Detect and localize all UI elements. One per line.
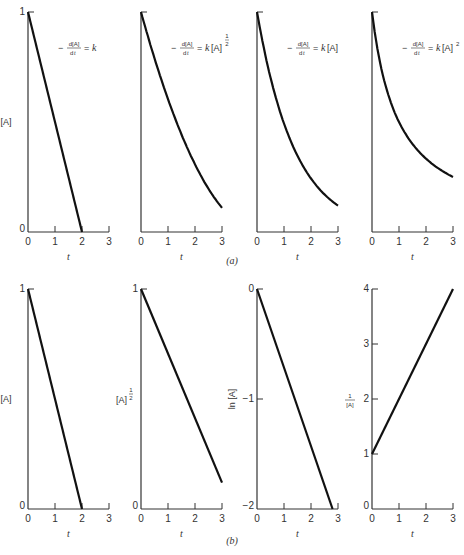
x-tick-label: 0 xyxy=(25,236,31,247)
x-tick-label: 2 xyxy=(308,513,314,524)
x-tick-label: 2 xyxy=(423,513,429,524)
y-tick-label: −2 xyxy=(243,500,255,511)
x-tick-label: 3 xyxy=(335,236,341,247)
x-tick-label: 0 xyxy=(369,513,375,524)
concentration: [A] xyxy=(327,43,338,53)
x-axis-title: t xyxy=(411,251,414,262)
x-tick-label: 0 xyxy=(25,513,31,524)
rate-constant: k xyxy=(92,42,97,53)
x-tick-label: 0 xyxy=(138,513,144,524)
y-tick-label: 0 xyxy=(132,500,138,511)
y-axis-title: [A] xyxy=(346,402,354,408)
denominator: t xyxy=(303,50,305,56)
x-tick-label: 3 xyxy=(219,236,225,247)
chart-a-1: 0123t01[A]−d[A]dt=k xyxy=(0,6,112,262)
x-tick-label: 3 xyxy=(450,236,456,247)
exponent: 1 xyxy=(225,33,229,39)
denominator: d xyxy=(414,50,417,56)
equals: = xyxy=(428,43,433,53)
denominator: t xyxy=(187,50,189,56)
y-exponent: 2 xyxy=(129,395,133,401)
minus-sign: − xyxy=(58,43,63,53)
y-tick-label: 4 xyxy=(363,283,369,294)
denominator: t xyxy=(418,50,420,56)
y-axis-title: 1 xyxy=(348,393,352,399)
concentration: [A] xyxy=(442,43,453,53)
data-curve xyxy=(372,12,453,177)
y-axis-title: [A] xyxy=(0,117,11,127)
numerator: d[A] xyxy=(298,41,309,47)
y-tick-label: 1 xyxy=(19,283,25,294)
y-tick-label: 3 xyxy=(363,338,369,349)
chart-b-2: 0123t01[A]12 xyxy=(116,283,225,539)
x-axis-title: t xyxy=(180,528,183,539)
x-axis-title: t xyxy=(180,251,183,262)
x-tick-label: 1 xyxy=(52,236,58,247)
x-tick-label: 1 xyxy=(396,236,402,247)
x-tick-label: 2 xyxy=(192,513,198,524)
x-tick-label: 3 xyxy=(106,236,112,247)
x-tick-label: 1 xyxy=(281,236,287,247)
x-tick-label: 1 xyxy=(165,236,171,247)
x-tick-label: 0 xyxy=(254,513,260,524)
denominator: t xyxy=(74,50,76,56)
rate-constant: k xyxy=(321,42,326,53)
rate-equation: −d[A]dt=k[A] xyxy=(287,41,338,56)
x-axis-title: t xyxy=(296,528,299,539)
x-tick-label: 2 xyxy=(308,236,314,247)
exponent: 2 xyxy=(225,41,229,47)
y-tick-label: 0 xyxy=(363,500,369,511)
x-tick-label: 2 xyxy=(423,236,429,247)
rate-constant: k xyxy=(205,42,210,53)
minus-sign: − xyxy=(287,43,292,53)
x-tick-label: 1 xyxy=(396,513,402,524)
y-tick-label: 0 xyxy=(248,283,254,294)
x-axis-title: t xyxy=(296,251,299,262)
y-exponent: 1 xyxy=(129,387,133,393)
rate-constant: k xyxy=(436,42,441,53)
equals: = xyxy=(197,43,202,53)
y-tick-label: 1 xyxy=(132,283,138,294)
x-tick-label: 3 xyxy=(106,513,112,524)
x-tick-label: 0 xyxy=(138,236,144,247)
x-axis-title: t xyxy=(67,528,70,539)
x-tick-label: 2 xyxy=(79,513,85,524)
y-axis-title: [A] xyxy=(116,395,127,405)
chart-a-4: 0123t−d[A]dt=k[A]2 xyxy=(369,12,460,262)
denominator: d xyxy=(70,50,73,56)
chart-a-2: 0123t−d[A]dt=k[A]12 xyxy=(138,12,229,262)
data-curve xyxy=(28,289,82,509)
minus-sign: − xyxy=(402,43,407,53)
rate-law-figure: 0123t01[A]−d[A]dt=k0123t−d[A]dt=k[A]1201… xyxy=(0,0,464,555)
equals: = xyxy=(313,43,318,53)
x-tick-label: 1 xyxy=(165,513,171,524)
x-tick-label: 1 xyxy=(281,513,287,524)
x-tick-label: 1 xyxy=(52,513,58,524)
chart-b-3: 0123t−2−10ln [A] xyxy=(227,283,341,539)
data-curve xyxy=(257,289,333,509)
chart-b-1: 0123t01[A] xyxy=(0,283,112,539)
y-tick-label: 1 xyxy=(19,6,25,17)
data-curve xyxy=(372,289,453,454)
y-tick-label: 0 xyxy=(19,223,25,234)
exponent: 2 xyxy=(456,41,460,47)
y-tick-label: 2 xyxy=(363,393,369,404)
x-tick-label: 0 xyxy=(369,236,375,247)
x-axis-title: t xyxy=(411,528,414,539)
rate-equation: −d[A]dt=k xyxy=(58,41,97,56)
numerator: d[A] xyxy=(182,41,193,47)
numerator: d[A] xyxy=(69,41,80,47)
concentration: [A] xyxy=(211,43,222,53)
x-tick-label: 2 xyxy=(192,236,198,247)
x-axis-title: t xyxy=(67,251,70,262)
x-tick-label: 0 xyxy=(254,236,260,247)
chart-b-4: 0123t012341[A] xyxy=(345,283,456,539)
y-tick-label: −1 xyxy=(243,393,255,404)
row-label-a: (a) xyxy=(226,255,238,267)
y-axis-title: [A] xyxy=(0,394,11,404)
x-tick-label: 3 xyxy=(219,513,225,524)
equals: = xyxy=(84,43,89,53)
y-tick-label: 1 xyxy=(363,448,369,459)
chart-a-3: 0123t−d[A]dt=k[A] xyxy=(254,12,341,262)
y-axis-title: ln [A] xyxy=(227,389,237,410)
